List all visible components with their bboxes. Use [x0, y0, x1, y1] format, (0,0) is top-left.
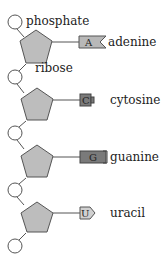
phosphate-circle [8, 15, 22, 29]
phosphate-circle [8, 126, 22, 140]
base-adenine: A [79, 36, 106, 48]
base-uracil: U [80, 207, 95, 219]
label-adenine: adenine [108, 35, 156, 49]
label-uracil: uracil [110, 206, 145, 220]
base-guanine: G [80, 151, 107, 163]
phosphate-circle [8, 239, 22, 253]
phosphate-circle [8, 70, 22, 84]
base-letter-a: A [84, 37, 93, 48]
base-cytosine: C [80, 94, 94, 106]
ribose-pentagon [21, 202, 53, 232]
label-guanine: guanine [110, 150, 159, 164]
base-letter-c: C [82, 95, 90, 106]
ribose-pentagon [20, 30, 52, 63]
label-cytosine: cytosine [110, 93, 160, 107]
base-letter-u: U [81, 208, 89, 219]
label-phosphate: phosphate [26, 14, 89, 28]
ribose-pentagon [21, 145, 53, 177]
label-ribose: ribose [35, 61, 73, 75]
rna-strand-diagram: A C G U phosphate ribose adenine cytosin… [0, 0, 161, 270]
base-letter-g: G [89, 152, 97, 163]
ribose-pentagon [21, 88, 53, 120]
phosphate-circle [8, 183, 22, 197]
phosphate-circles [8, 15, 22, 253]
